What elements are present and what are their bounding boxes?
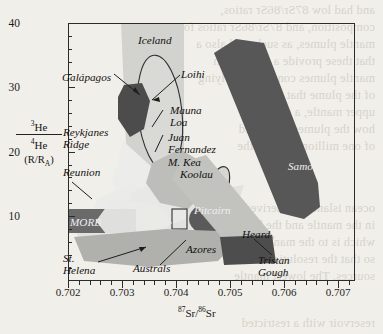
- x-axis-label: 0.702: [38, 286, 98, 298]
- x-tick-minor: [316, 281, 317, 285]
- x-axis-title: 87Sr/86Sr: [178, 305, 216, 319]
- x-tick-minor: [273, 281, 274, 285]
- field-label-reunion: Reunion: [63, 166, 100, 178]
- y-axis-label: 30: [0, 81, 20, 93]
- field-label-pitcairn: Pitcairn: [194, 204, 231, 216]
- x-tick-minor: [219, 281, 220, 285]
- x-tick-minor: [327, 281, 328, 285]
- x-tick-minor: [198, 281, 199, 285]
- x-tick-minor: [90, 281, 91, 285]
- x-tick-minor: [100, 281, 101, 285]
- field-label-reykjanes-ridge: Reykjanes Ridge: [63, 126, 108, 151]
- x-tick-minor: [111, 281, 112, 285]
- field-label-heard: Heard: [242, 228, 270, 240]
- field-label-samoa: Samoa: [288, 160, 318, 172]
- y-tick-minor: [68, 62, 72, 63]
- field-label-azores: Azores: [186, 243, 216, 255]
- field-label-st-helena: St. Helena: [63, 252, 95, 277]
- x-tick-minor: [306, 281, 307, 285]
- y-tick-minor: [68, 242, 72, 243]
- x-tick-minor: [154, 281, 155, 285]
- x-tick-minor: [79, 281, 80, 285]
- y-tick-major: [68, 87, 75, 88]
- y-tick-major: [68, 23, 75, 24]
- field-label-m-kea: M. Kea: [168, 156, 201, 168]
- x-axis-label: 0.705: [200, 286, 260, 298]
- x-axis-label: 0.706: [254, 286, 314, 298]
- isotope-ratio-chart: 40 30 20 10 0.702 0.703 0.704 0.705 0.70…: [0, 0, 383, 334]
- x-tick-minor: [262, 281, 263, 285]
- x-tick-minor: [144, 281, 145, 285]
- y-tick-minor: [68, 36, 72, 37]
- field-label-iceland: Iceland: [138, 34, 172, 46]
- x-tick-minor: [133, 281, 134, 285]
- field-label-loihi: Loihi: [181, 68, 205, 80]
- x-tick-minor: [165, 281, 166, 285]
- y-tick-major: [68, 152, 75, 153]
- x-tick-minor: [241, 281, 242, 285]
- field-label-koolau: Koolau: [180, 168, 213, 180]
- field-label-galapagos: Galápagos: [62, 71, 111, 83]
- y-axis-title: 3He 4He (R/RA): [16, 118, 62, 170]
- field-label-tristan-gough: Tristan Gough: [258, 254, 290, 279]
- x-tick-minor: [252, 281, 253, 285]
- x-tick-minor: [295, 281, 296, 285]
- x-axis-label: 0.703: [92, 286, 152, 298]
- field-label-mauna-loa: Mauna Loa: [170, 104, 202, 129]
- field-label-juan-fernandez: Juan Fernandez: [168, 131, 216, 156]
- y-tick-minor: [68, 203, 72, 204]
- y-tick-minor: [68, 229, 72, 230]
- y-tick-minor: [68, 100, 72, 101]
- y-tick-minor: [68, 49, 72, 50]
- y-tick-minor: [68, 113, 72, 114]
- x-tick-minor: [349, 281, 350, 285]
- y-axis-label: 10: [0, 210, 20, 222]
- x-axis-label: 0.704: [146, 286, 206, 298]
- y-axis-label: 40: [0, 17, 20, 29]
- field-label-morb: MORB: [70, 216, 101, 228]
- field-label-australs: Australs: [133, 262, 170, 274]
- y-tick-minor: [68, 190, 72, 191]
- x-tick-minor: [208, 281, 209, 285]
- x-tick-minor: [187, 281, 188, 285]
- x-axis-label: 0.707: [308, 286, 368, 298]
